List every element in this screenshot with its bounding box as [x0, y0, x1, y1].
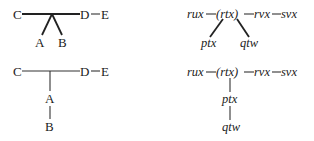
node-d: D: [80, 7, 89, 22]
node-ptx: ptx: [200, 36, 217, 50]
edge-rtx-ptx: [210, 19, 223, 37]
edge-junction-b: [52, 14, 62, 35]
tree-top-left: C D E A B: [13, 7, 109, 50]
tree-top-right: rux (rtx) rvx svx ptx qtw: [187, 7, 297, 50]
tree-bottom-right: rux (rtx) rvx svx ptx qtw: [187, 65, 297, 134]
edge-rtx-qtw: [237, 19, 249, 37]
node-rtx: (rtx): [216, 65, 238, 79]
node-rux: rux: [187, 7, 204, 21]
node-a: A: [35, 35, 45, 50]
node-rux: rux: [187, 65, 204, 79]
node-d: D: [80, 64, 89, 79]
node-qtw: qtw: [222, 120, 241, 134]
diagram-canvas: C D E A B rux (rtx) rvx svx ptx qtw C D …: [0, 0, 314, 141]
edge-junction-a: [42, 14, 52, 35]
node-b: B: [45, 119, 54, 134]
node-rtx: (rtx): [216, 7, 238, 21]
node-svx: svx: [281, 7, 297, 21]
node-qtw: qtw: [240, 36, 259, 50]
node-a: A: [45, 91, 55, 106]
node-e: E: [101, 64, 109, 79]
node-rvx: rvx: [254, 7, 270, 21]
node-rvx: rvx: [254, 65, 270, 79]
node-e: E: [101, 7, 109, 22]
node-c: C: [13, 64, 22, 79]
node-ptx: ptx: [221, 92, 238, 106]
node-b: B: [58, 35, 67, 50]
node-svx: svx: [281, 65, 297, 79]
node-c: C: [13, 7, 22, 22]
tree-bottom-left: C D E A B: [13, 64, 109, 134]
